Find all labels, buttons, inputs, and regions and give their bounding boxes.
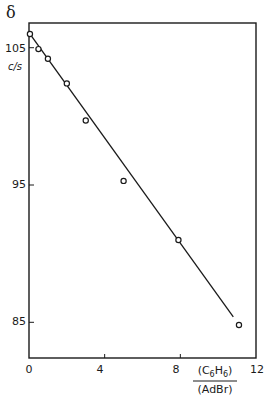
fit-line	[29, 33, 233, 317]
data-point	[176, 237, 181, 242]
data-point	[36, 46, 41, 51]
chart: δ c/s 105 95 85 0 4 8 12 (C6H6) (AdBr)	[0, 0, 270, 399]
y-tick-label-95: 95	[12, 178, 26, 191]
x-tick-label-8: 8	[173, 363, 180, 376]
x-axis-label: (C6H6) (AdBr)	[193, 364, 237, 396]
data-point	[121, 178, 126, 183]
y-tick-label-105: 105	[5, 42, 26, 55]
data-point	[45, 56, 50, 61]
x-axis-numerator: (C6H6)	[198, 364, 233, 379]
data-point	[27, 31, 32, 36]
y-axis-unit: c/s	[8, 61, 22, 72]
y-axis-symbol: δ	[6, 3, 16, 22]
tick-marks	[29, 48, 180, 358]
data-point	[236, 322, 241, 327]
y-tick-label-85: 85	[12, 315, 26, 328]
data-point	[64, 81, 69, 86]
x-axis-denominator: (AdBr)	[198, 383, 233, 396]
x-tick-label-0: 0	[26, 363, 33, 376]
x-tick-label-4: 4	[97, 363, 104, 376]
x-tick-label-12: 12	[250, 363, 264, 376]
data-point	[83, 118, 88, 123]
